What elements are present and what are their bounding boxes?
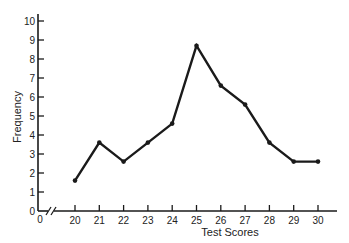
x-tick-label: 22 [118, 215, 130, 226]
data-point-marker [121, 159, 126, 164]
data-point-marker [291, 159, 296, 164]
x-tick-label: 25 [191, 215, 203, 226]
data-point-marker [97, 140, 102, 145]
y-tick-label: 7 [29, 73, 35, 84]
series-line [75, 46, 318, 181]
x-tick-label: 27 [240, 215, 252, 226]
x-tick-label: 23 [142, 215, 154, 226]
x-axis: 02021222324252627282930 [37, 205, 337, 226]
data-point-marker [170, 121, 175, 126]
frequency-line-chart: 012345678910 02021222324252627282930 Fre… [0, 0, 349, 243]
x-tick-label: 20 [69, 215, 81, 226]
x-axis-title: Test Scores [201, 226, 259, 238]
y-axis-title: Frequency [11, 91, 23, 143]
y-tick-label: 2 [29, 168, 35, 179]
data-point-marker [73, 178, 78, 183]
y-tick-label: 5 [29, 111, 35, 122]
y-tick-label: 10 [24, 16, 36, 27]
y-tick-label: 8 [29, 54, 35, 65]
x-tick-label: 26 [215, 215, 227, 226]
y-tick-label: 6 [29, 92, 35, 103]
data-point-marker [146, 140, 151, 145]
data-point-marker [194, 43, 199, 48]
y-axis: 012345678910 [24, 14, 44, 217]
data-point-marker [243, 102, 248, 107]
data-point-marker [316, 159, 321, 164]
y-tick-label: 9 [29, 35, 35, 46]
x-tick-label: 29 [288, 215, 300, 226]
x-tick-label: 30 [312, 215, 324, 226]
data-series [73, 43, 321, 183]
x-tick-label: 24 [167, 215, 179, 226]
x-tick-label: 21 [94, 215, 106, 226]
y-tick-label: 0 [29, 206, 35, 217]
y-tick-label: 4 [29, 130, 35, 141]
data-point-marker [267, 140, 272, 145]
x-tick-label: 0 [37, 214, 43, 225]
y-tick-label: 3 [29, 149, 35, 160]
y-tick-label: 1 [29, 187, 35, 198]
data-point-marker [219, 83, 224, 88]
x-tick-label: 28 [264, 215, 276, 226]
